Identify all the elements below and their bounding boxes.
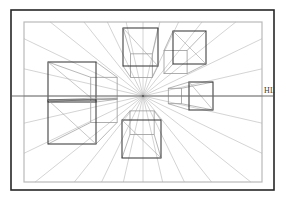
vanishing-point	[142, 95, 144, 97]
perspective-diagram-canvas: HL	[0, 0, 286, 200]
horizon-line-label: HL	[264, 86, 275, 95]
perspective-drawing: HL	[0, 0, 286, 200]
